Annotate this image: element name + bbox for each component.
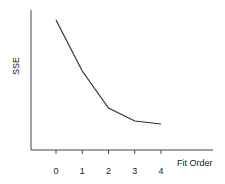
sse-line	[56, 20, 161, 124]
x-tick-label: 4	[158, 166, 163, 176]
x-tick-label: 2	[106, 166, 111, 176]
chart: 01234 SSE Fit Order	[0, 0, 225, 184]
plot-area: 01234	[31, 10, 213, 176]
x-ticks: 01234	[53, 150, 163, 176]
x-axis-label: Fit Order	[177, 158, 213, 168]
x-tick-label: 1	[80, 166, 85, 176]
x-tick-label: 3	[132, 166, 137, 176]
y-axis-label: SSE	[11, 57, 21, 75]
x-tick-label: 0	[53, 166, 58, 176]
